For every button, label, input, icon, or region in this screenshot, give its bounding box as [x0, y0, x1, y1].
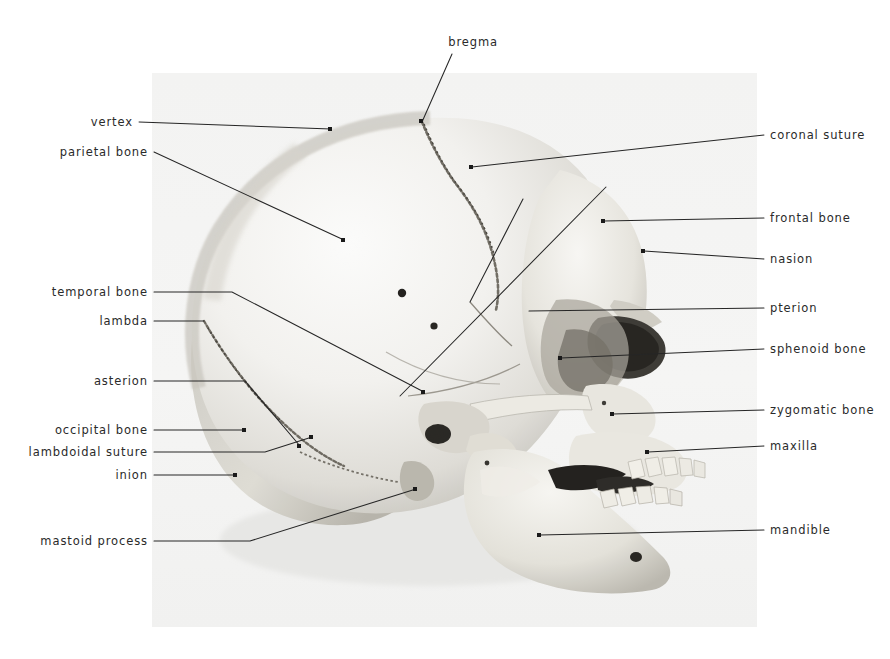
label-occipital-bone: occipital bone: [55, 423, 148, 437]
dot-sphenoid-bone: [558, 356, 562, 360]
dot-maxilla: [645, 450, 649, 454]
dot-temporal-bone: [421, 390, 425, 394]
dot-asterion: [297, 444, 301, 448]
skull-photograph: [152, 73, 757, 627]
label-zygomatic-bone: zygomatic bone: [770, 403, 874, 417]
label-sphenoid-bone: sphenoid bone: [770, 342, 867, 356]
label-maxilla: maxilla: [770, 439, 818, 453]
dot-mandible: [537, 533, 541, 537]
label-vertex: vertex: [91, 115, 133, 129]
label-parietal-bone: parietal bone: [60, 145, 148, 159]
dot-coronal-suture: [469, 165, 473, 169]
dot-frontal-bone: [601, 219, 605, 223]
label-frontal-bone: frontal bone: [770, 211, 851, 225]
photo-grain: [152, 73, 757, 627]
figure-canvas: bregma vertex parietal bone temporal bon…: [0, 0, 890, 659]
label-inion: inion: [115, 468, 148, 482]
label-pterion: pterion: [770, 301, 817, 315]
label-lambda: lambda: [100, 314, 149, 328]
dot-parietal-bone: [341, 238, 345, 242]
skull-anatomy-figure: bregma vertex parietal bone temporal bon…: [0, 0, 890, 659]
label-asterion: asterion: [94, 374, 148, 388]
dot-lambdoidal-suture: [309, 435, 313, 439]
label-nasion: nasion: [770, 252, 813, 266]
dot-nasion: [641, 249, 645, 253]
label-coronal-suture: coronal suture: [770, 128, 865, 142]
dot-mastoid-process: [413, 487, 417, 491]
label-mastoid-process: mastoid process: [40, 534, 148, 548]
dot-inion: [233, 473, 237, 477]
dot-bregma: [419, 119, 423, 123]
label-bregma: bregma: [448, 35, 498, 49]
label-temporal-bone: temporal bone: [52, 285, 148, 299]
dot-vertex: [328, 127, 332, 131]
dot-occipital-bone: [242, 428, 246, 432]
label-lambdoidal-suture: lambdoidal suture: [29, 445, 148, 459]
dot-zygomatic-bone: [610, 412, 614, 416]
label-mandible: mandible: [770, 523, 831, 537]
